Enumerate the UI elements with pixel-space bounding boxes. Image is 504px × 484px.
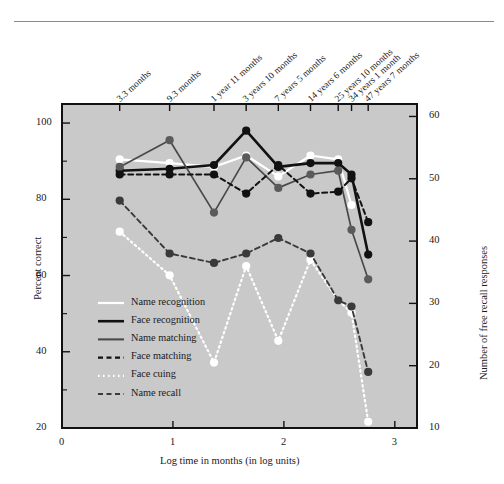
- y-right-tick-label: 50: [429, 172, 440, 183]
- y-right-tick-label: 30: [429, 296, 440, 307]
- legend-label: Name recall: [131, 387, 181, 398]
- y-right-tick-label: 40: [429, 234, 440, 245]
- y-right-tick-label: 60: [429, 109, 440, 120]
- legend-label: Name recognition: [131, 296, 205, 307]
- y-left-axis-title: Percent correct: [32, 237, 43, 300]
- x-axis-title: Log time in months (in log units): [160, 455, 299, 466]
- y-left-tick-label: 40: [36, 345, 47, 356]
- y-left-tick-label: 80: [36, 192, 47, 203]
- y-left-tick-label: 20: [36, 421, 47, 432]
- legend-label: Face recognition: [131, 314, 200, 325]
- y-right-tick-label: 10: [429, 421, 440, 432]
- chart-figure: 3.3 months9.3 months1 year 11 months3 ye…: [0, 0, 504, 484]
- x-tick-label: 0: [59, 436, 64, 447]
- y-left-tick-label: 100: [36, 116, 52, 127]
- legend-label: Face cuing: [131, 368, 176, 379]
- x-tick-label: 1: [170, 436, 175, 447]
- y-right-axis-title: Number of free recall responses: [478, 246, 489, 380]
- legend-label: Name matching: [131, 332, 196, 343]
- legend-label: Face matching: [131, 350, 191, 361]
- y-right-tick-label: 20: [429, 359, 440, 370]
- x-tick-label: 2: [281, 436, 286, 447]
- x-tick-label: 3: [392, 436, 397, 447]
